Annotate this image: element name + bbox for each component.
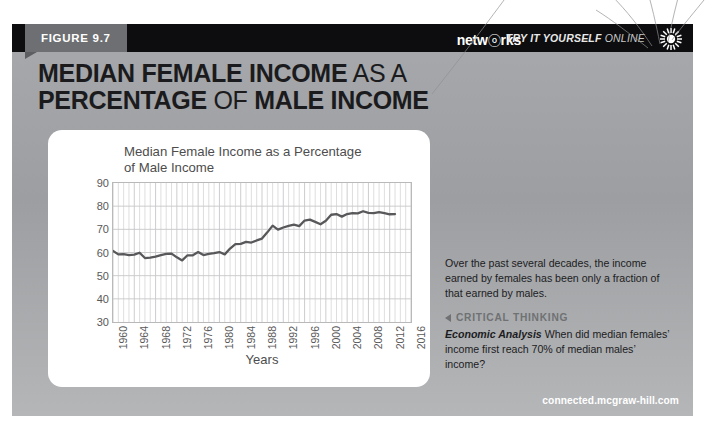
chart-xtick-label: 1976 (202, 326, 214, 349)
try-it-yourself-label: TRY IT YOURSELF (506, 32, 602, 44)
sunburst-icon (659, 27, 683, 51)
chart-ytick-label: 70 (97, 223, 109, 235)
chart-xtick-label: 2000 (330, 326, 342, 349)
chart-xtick-label: 2004 (351, 326, 363, 349)
page-title-line1-light: AS A (353, 59, 407, 87)
figure-number-label: FIGURE 9.7 (41, 32, 111, 44)
chart-xtick-label: 1984 (245, 326, 257, 349)
figure-header-bar: FIGURE 9.7 netwⓞrks TRY IT YOURSELF ONLI… (12, 24, 693, 52)
chart-xtick-label: 1996 (309, 326, 321, 349)
chart-xtick-label: 1968 (160, 326, 172, 349)
chart-ytick-label: 30 (97, 316, 109, 328)
critical-thinking-heading: CRITICAL THINKING (445, 312, 673, 323)
chart-xtick-label: 1960 (117, 326, 129, 349)
chart-ytick-label: 80 (97, 200, 109, 212)
page-title-line2-strong: PERCENTAGE (38, 86, 207, 114)
page-title-line1-strong: MEDIAN FEMALE INCOME (38, 59, 347, 87)
chart-xtick-label: 1972 (181, 326, 193, 349)
chart-xtick-label: 2016 (415, 326, 427, 349)
chart-plot-area: 3040506070809019601964196819721976198019… (112, 182, 412, 323)
chart-xaxis-title: Years (112, 352, 412, 367)
figure-number-tab: FIGURE 9.7 (25, 24, 127, 52)
economic-analysis-label: Economic Analysis (445, 328, 542, 340)
chart-xtick-label: 2012 (394, 326, 406, 349)
critical-thinking-question: Economic Analysis When did median female… (445, 327, 677, 372)
page-title-line2-strong2: MALE INCOME (254, 86, 428, 114)
chart-xtick-label: 1988 (266, 326, 278, 349)
figure-screenshot: FIGURE 9.7 netwⓞrks TRY IT YOURSELF ONLI… (0, 0, 705, 439)
figure-tab-notch (25, 52, 37, 59)
page-title: MEDIAN FEMALE INCOME AS A PERCENTAGE OF … (38, 60, 558, 114)
chart-xtick-label: 2008 (372, 326, 384, 349)
chart-ytick-label: 90 (97, 177, 109, 189)
chart-xtick-label: 1980 (223, 326, 235, 349)
networks-ring-icon: ⓞ (488, 30, 501, 49)
chart-card: Median Female Income as a Percentage of … (48, 130, 430, 387)
chart-ytick-label: 50 (97, 270, 109, 282)
networks-logo-text: netw (457, 32, 488, 48)
online-label: ONLINE (605, 32, 645, 44)
critical-thinking-label: CRITICAL THINKING (456, 312, 568, 323)
figure-caption: Over the past several decades, the incom… (445, 256, 673, 301)
try-it-yourself-online-link[interactable]: TRY IT YOURSELF ONLINE (506, 32, 645, 44)
chart-title: Median Female Income as a Percentage of … (124, 144, 374, 176)
footer-url: connected.mcgraw-hill.com (542, 395, 679, 406)
chart-ytick-label: 40 (97, 293, 109, 305)
chart-ytick-label: 60 (97, 247, 109, 259)
figure-panel: FIGURE 9.7 netwⓞrks TRY IT YOURSELF ONLI… (12, 24, 693, 416)
chart-xtick-label: 1992 (287, 326, 299, 349)
chart-xtick-label: 1964 (138, 326, 150, 349)
chart-svg (113, 183, 411, 322)
left-triangle-icon (445, 314, 451, 322)
page-title-line2-light: OF (213, 86, 247, 114)
